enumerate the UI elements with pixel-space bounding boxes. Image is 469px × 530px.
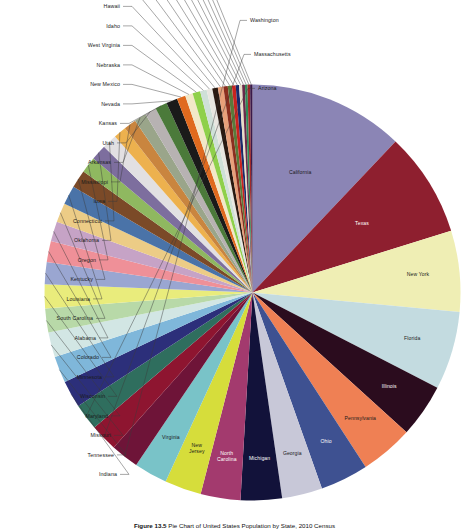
slice-outer-label: Nevada: [101, 101, 120, 107]
slice-inner-label: New York: [407, 272, 430, 278]
slice-outer-label: Maryland: [85, 413, 108, 419]
label-leader-line: [123, 101, 172, 104]
slice-outer-label: Missouri: [90, 432, 111, 438]
slice-outer-label: Utah: [102, 140, 114, 146]
slice-outer-label: Mississippi: [81, 179, 108, 185]
slice-inner-label: Georgia: [283, 450, 302, 456]
slice-outer-label: Tennessee: [87, 452, 114, 458]
label-leader-line: [123, 0, 234, 85]
slice-outer-label: Idaho: [106, 23, 120, 29]
caption-text: Pie Chart of United States Population by…: [168, 522, 335, 529]
slice-outer-label: Iowa: [93, 198, 105, 204]
caption-label: Figure 13.5: [134, 522, 167, 529]
slice-outer-label: West Virginia: [88, 42, 120, 48]
label-leader-line: [123, 0, 221, 87]
pie-slices: [45, 84, 461, 500]
slice-inner-label: Florida: [404, 336, 420, 342]
slice-inner-label: Pennsylvania: [345, 416, 377, 422]
figure-container: CaliforniaTexasNew YorkFloridaIllinoisPe…: [0, 0, 469, 530]
slice-outer-label: Alabama: [74, 335, 96, 341]
slice-outer-label: Hawaii: [104, 3, 121, 9]
label-leader-line: [123, 0, 215, 88]
slice-outer-label: Arizona: [258, 85, 277, 91]
slice-inner-label: Ohio: [320, 438, 331, 444]
slice-inner-label: Texas: [355, 221, 369, 227]
slice-outer-label: Indiana: [99, 471, 117, 477]
slice-outer-label: Washington: [250, 17, 279, 23]
slice-inner-label: Virginia: [162, 434, 180, 440]
label-leader-line: [123, 6, 209, 89]
slice-inner-label: California: [289, 169, 312, 175]
label-leader-line: [123, 45, 196, 92]
label-leader-line: [123, 84, 181, 97]
slice-outer-label: Massachusetts: [254, 51, 291, 57]
label-leader-line: [123, 0, 249, 85]
label-leader-line: [123, 0, 241, 85]
slice-outer-label: Colorado: [77, 354, 99, 360]
slice-outer-label: Kentucky: [70, 276, 93, 282]
slice-outer-label: Louisiana: [66, 296, 90, 302]
pie-chart: CaliforniaTexasNew YorkFloridaIllinoisPe…: [0, 0, 469, 530]
slice-outer-label: Arkansas: [88, 159, 111, 165]
slice-inner-label: Illinois: [382, 384, 397, 390]
slice-outer-label: Connecticut: [73, 218, 102, 224]
slice-outer-label: New Mexico: [90, 81, 120, 87]
slice-outer-label: South Carolina: [57, 315, 93, 321]
slice-outer-label: Kansas: [99, 120, 118, 126]
slice-outer-label: Oklahoma: [74, 237, 99, 243]
slice-inner-label: Michigan: [249, 455, 270, 461]
slice-outer-label: Nebraska: [97, 62, 120, 68]
label-leader-line: [123, 0, 237, 85]
figure-caption: Figure 13.5 Pie Chart of United States P…: [0, 521, 469, 530]
slice-outer-label: Wisconsin: [80, 393, 105, 399]
slice-outer-label: Oregon: [78, 257, 96, 263]
slice-outer-label: Minnesota: [77, 374, 102, 380]
